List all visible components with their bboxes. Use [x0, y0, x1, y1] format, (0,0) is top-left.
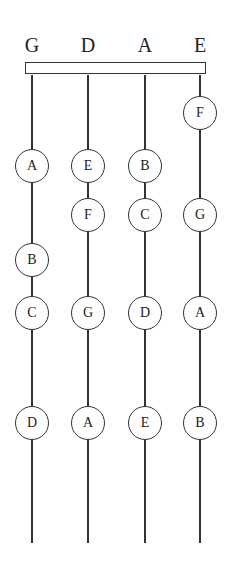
- nut: [25, 62, 206, 74]
- note-circle: E: [71, 149, 105, 183]
- note-circle: A: [183, 296, 217, 330]
- note-circle: F: [71, 198, 105, 232]
- note-circle: E: [128, 406, 162, 440]
- note-circle: G: [71, 296, 105, 330]
- note-circle: D: [15, 406, 49, 440]
- note-circle: C: [128, 198, 162, 232]
- note-circle: A: [15, 149, 49, 183]
- note-circle: A: [71, 406, 105, 440]
- note-circle: B: [183, 406, 217, 440]
- string-label-d: D: [73, 34, 103, 57]
- note-circle: B: [128, 149, 162, 183]
- note-circle: C: [15, 296, 49, 330]
- note-circle: G: [183, 198, 217, 232]
- string-label-e: E: [185, 34, 215, 57]
- note-circle: F: [183, 96, 217, 130]
- note-circle: B: [15, 243, 49, 277]
- string-label-a: A: [130, 34, 160, 57]
- note-circle: D: [128, 296, 162, 330]
- string-label-g: G: [17, 34, 47, 57]
